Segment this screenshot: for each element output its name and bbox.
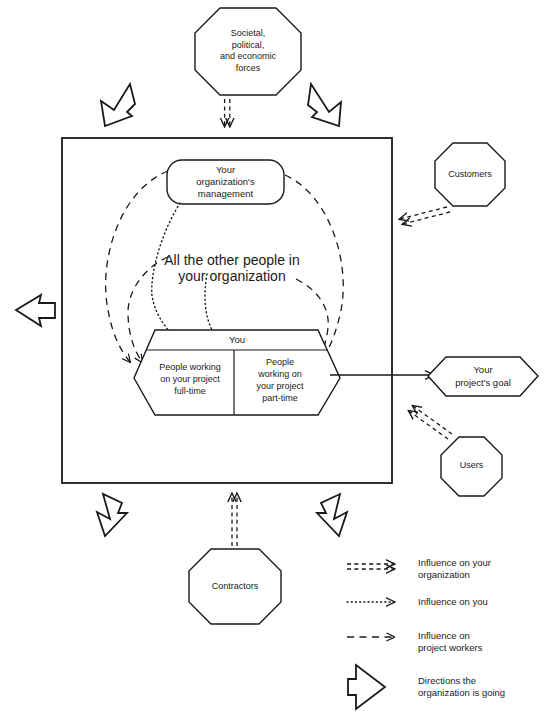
societal-forces-label-line-2: political, [232, 40, 265, 50]
node-customers[interactable]: Customers [435, 143, 505, 206]
part-time-label-line-4: part-time [262, 393, 298, 403]
node-other-people[interactable]: All the other people in your organizatio… [164, 252, 299, 284]
edge-customers-line-b [403, 212, 450, 224]
edge-contractors-to-organization [232, 494, 237, 546]
project-goal-label-line-2: project's goal [455, 377, 511, 388]
societal-forces-label-line-1: Societal, [231, 28, 266, 38]
legend-item-influence-workers: Influence on project workers [347, 630, 483, 653]
edge-users-line-b [409, 411, 448, 439]
societal-forces-label-line-3: and economic [220, 51, 277, 61]
part-time-label-line-2: working on [257, 369, 302, 379]
part-time-label-line-1: People [266, 357, 294, 367]
direction-arrow-left [16, 295, 55, 326]
fat-outline-arrow-icon [308, 84, 341, 126]
full-time-label-line-2: on your project [160, 374, 220, 384]
edge-societal-to-organization [225, 99, 230, 126]
node-project-goal[interactable]: Your project's goal [428, 357, 538, 396]
legend-item-influence-you: Influence on you [347, 596, 488, 607]
other-people-label-line-2: your organization [178, 268, 285, 284]
fat-outline-arrow-icon [348, 665, 385, 709]
management-label-line-3: management [198, 188, 254, 199]
direction-arrow-lower-right [317, 494, 347, 536]
legend-label-4-line-2: organization is going [418, 687, 505, 698]
node-users[interactable]: Users [441, 437, 502, 496]
you-label: You [229, 334, 245, 345]
fat-outline-arrow-icon [16, 295, 55, 326]
fat-outline-arrow-icon [317, 494, 347, 536]
node-contractors[interactable]: Contractors [189, 549, 281, 624]
edge-management-dotted-to-you [152, 203, 180, 344]
legend-item-influence-organization: Influence on your organization [347, 557, 491, 580]
legend-label-4-line-1: Directions the [418, 675, 476, 686]
legend-label-1-line-2: organization [418, 569, 470, 580]
legend-label-1-line-1: Influence on your [418, 557, 491, 568]
edge-customers-to-organization [400, 207, 450, 224]
contractors-label: Contractors [212, 581, 259, 591]
legend-label-2-line-1: Influence on you [418, 596, 488, 607]
legend-label-3-line-2: project workers [418, 642, 483, 653]
project-goal-label-line-1: Your [473, 364, 492, 375]
societal-forces-label-line-4: forces [236, 63, 261, 73]
node-you[interactable]: You People working on your project full-… [134, 330, 340, 415]
legend-label-3-line-1: Influence on [418, 630, 470, 641]
management-label-line-1: Your [216, 164, 235, 175]
node-societal-forces[interactable]: Societal, political, and economic forces [195, 8, 301, 95]
node-management[interactable]: Your organization's management [167, 160, 284, 204]
direction-arrow-upper-right [308, 84, 341, 126]
customers-label: Customers [448, 169, 492, 179]
full-time-label-line-3: full-time [174, 386, 206, 396]
fat-outline-arrow-icon [97, 494, 127, 536]
edge-users-to-goal [409, 406, 452, 439]
fat-outline-arrow-icon [101, 84, 135, 126]
direction-arrow-lower-left [97, 494, 127, 536]
legend: Influence on your organization Influence… [347, 557, 505, 709]
other-people-label-line-1: All the other people in [164, 252, 299, 268]
users-label: Users [460, 460, 484, 470]
double-dashed-arrow-icon [347, 564, 394, 569]
management-label-line-2: organization's [196, 176, 255, 187]
direction-arrow-upper-left [101, 84, 135, 126]
legend-item-directions: Directions the organization is going [348, 665, 505, 709]
edge-users-line-a [413, 406, 452, 434]
edge-customers-line-a [400, 207, 447, 219]
part-time-label-line-3: your project [256, 381, 304, 391]
diagram-canvas: Societal, political, and economic forces… [0, 0, 549, 713]
diagram-root: Societal, political, and economic forces… [0, 0, 549, 713]
full-time-label-line-1: People working [159, 362, 221, 372]
